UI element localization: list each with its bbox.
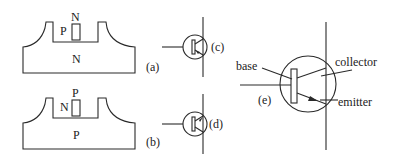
symbol-c-label: (c) <box>211 40 224 54</box>
collector-label: collector <box>335 55 377 69</box>
symbol-e-label: (e) <box>258 93 271 107</box>
base-label: base <box>236 59 257 73</box>
panel-a-top-region: N <box>71 10 80 24</box>
transistor-symbol-e: base collector emitter (e) <box>236 22 377 150</box>
transistor-diagram: N P N (a) P N P (b) (c) (d) <box>0 0 401 161</box>
emitter-arrow-icon <box>308 96 318 101</box>
symbol-d-label: (d) <box>209 117 223 131</box>
panel-b-cross-section: P N P (b) <box>23 86 160 149</box>
panel-b-substrate: P <box>73 128 80 142</box>
panel-b-left-region: N <box>60 100 69 114</box>
panel-a-left-region: P <box>60 24 67 38</box>
panel-b-top-region: P <box>72 86 79 100</box>
panel-a-label: (a) <box>146 60 159 74</box>
panel-a-cross-section: N P N (a) <box>23 10 159 74</box>
panel-b-label: (b) <box>146 135 160 149</box>
emitter-label: emitter <box>338 95 372 109</box>
transistor-symbol-d: (d) <box>162 94 223 154</box>
panel-a-substrate: N <box>72 52 81 66</box>
transistor-symbol-c: (c) <box>162 17 224 77</box>
